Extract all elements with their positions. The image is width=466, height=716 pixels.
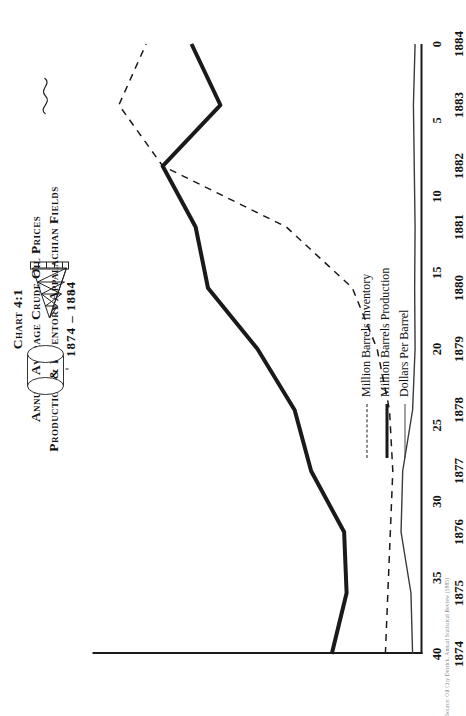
storage-tank-icon	[24, 338, 70, 400]
x-tick-label: 1877	[450, 458, 466, 484]
y-tick-label: 20	[429, 343, 444, 356]
dashed-line-icon	[361, 404, 371, 458]
legend-label: Million Barrels Production	[377, 268, 392, 397]
y-tick-label: 10	[429, 190, 444, 203]
x-tick-label: 1878	[450, 397, 466, 423]
y-tick-label: 5	[429, 117, 444, 123]
legend-label: Dollars Per Barrel	[396, 310, 411, 397]
y-tick-label: 35	[429, 572, 444, 585]
source-note: Source: Oil City Derrick, Annual Statist…	[443, 0, 449, 716]
legend-item-inventory: Million Barrels Inventory	[356, 268, 375, 458]
x-tick-label: 1874	[450, 641, 466, 667]
chart-number: Chart 4:1	[8, 154, 26, 484]
y-tick-label: 25	[429, 419, 444, 432]
legend-item-production: Million Barrels Production	[375, 268, 394, 458]
oil-derrick-icon	[24, 258, 74, 324]
x-tick-label: 1881	[450, 214, 466, 240]
legend-label: Million Barrels Inventory	[358, 274, 373, 397]
x-tick-label: 1879	[450, 336, 466, 362]
x-tick-label: 1884	[450, 31, 466, 57]
series-line-production	[162, 44, 346, 654]
y-tick-label: 40	[429, 648, 444, 661]
x-tick-label: 1882	[450, 153, 466, 179]
thick-line-icon	[380, 404, 390, 458]
thin-line-icon	[399, 404, 409, 458]
flourish-icon	[36, 76, 54, 116]
x-tick-label: 1876	[450, 519, 466, 545]
x-tick-label: 1875	[450, 580, 466, 606]
y-tick-label: 0	[429, 41, 444, 47]
x-tick-label: 1883	[450, 92, 466, 118]
legend-item-dollars: Dollars Per Barrel	[394, 268, 413, 458]
plot-area: Million Barrels Inventory Million Barrel…	[92, 44, 422, 654]
x-tick-label: 1880	[450, 275, 466, 301]
y-tick-label: 15	[429, 267, 444, 280]
chart-legend: Million Barrels Inventory Million Barrel…	[356, 268, 413, 458]
y-tick-label: 30	[429, 495, 444, 508]
